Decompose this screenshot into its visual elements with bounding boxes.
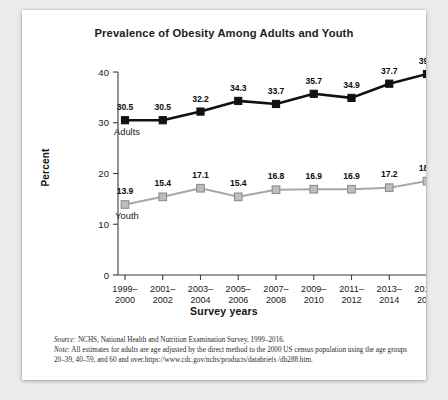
footnote-source-label: Source: — [54, 336, 76, 344]
data-point-marker — [159, 117, 166, 124]
data-point-marker — [385, 184, 393, 192]
data-point-marker — [197, 108, 204, 115]
data-point-label: 35.7 — [305, 76, 322, 86]
data-point-marker — [386, 80, 393, 87]
y-tick-label: 40 — [98, 67, 109, 78]
data-point-marker — [348, 94, 355, 101]
x-tick-label: 2008 — [266, 295, 286, 305]
x-tick-label: 2003– — [188, 284, 214, 294]
x-tick-label: 2002 — [153, 295, 173, 305]
data-point-marker — [234, 193, 242, 201]
x-tick-label: 1999– — [112, 284, 138, 294]
data-point-label: 17.1 — [192, 170, 209, 180]
data-point-label: 34.9 — [343, 80, 360, 90]
x-tick-label: 2004 — [190, 295, 210, 305]
data-point-label: 34.3 — [230, 83, 247, 93]
page-background: Prevalence of Obesity Among Adults and Y… — [0, 0, 448, 400]
data-point-label: 32.2 — [192, 94, 209, 104]
footnote-source-text: NCHS, National Health and Nutrition Exam… — [76, 336, 285, 344]
x-tick-label: 2015– — [414, 284, 426, 294]
data-point-marker — [310, 90, 317, 97]
data-point-label: 16.9 — [305, 171, 322, 181]
data-point-label: 16.9 — [343, 171, 360, 181]
data-point-label: 33.7 — [268, 86, 285, 96]
data-point-marker — [121, 117, 128, 124]
x-tick-label: 2001– — [150, 284, 176, 294]
data-point-marker — [197, 184, 205, 192]
x-tick-label: 2011– — [339, 284, 365, 294]
x-tick-label: 2007– — [263, 284, 289, 294]
data-point-marker — [235, 97, 242, 104]
series-label: Adults — [114, 127, 140, 137]
series-label: Youth — [115, 211, 138, 221]
y-tick-label: 0 — [104, 270, 109, 281]
y-tick-label: 10 — [98, 219, 109, 230]
data-point-label: 13.9 — [117, 186, 134, 196]
data-point-label: 39.6 — [419, 56, 426, 66]
x-tick-label: 2005– — [226, 284, 252, 294]
x-tick-label: 2013– — [377, 284, 403, 294]
figure-footnote: Source: NCHS, National Health and Nutrit… — [54, 335, 412, 366]
y-tick-label: 30 — [98, 117, 109, 128]
data-point-label: 17.2 — [381, 169, 398, 179]
data-point-label: 15.4 — [230, 178, 247, 188]
data-point-label: 37.7 — [381, 66, 398, 76]
chart-container: Percent Survey years 0102030401999–20002… — [22, 10, 426, 380]
footnote-note-text: All estimates for adults are age adjuste… — [54, 346, 407, 364]
data-point-label: 30.5 — [117, 102, 134, 112]
x-tick-label: 2012 — [341, 295, 361, 305]
x-tick-label: 2006 — [228, 295, 248, 305]
line-chart: 0102030401999–20002001–20022003–20042005… — [22, 10, 426, 310]
x-tick-label: 2010 — [304, 295, 324, 305]
data-point-label: 15.4 — [154, 178, 171, 188]
data-point-marker — [159, 193, 167, 201]
data-point-marker — [348, 185, 356, 193]
x-tick-label: 2016 — [417, 295, 426, 305]
footnote-note-label: Note: — [54, 346, 70, 354]
series-line — [125, 74, 426, 120]
data-point-label: 16.8 — [268, 171, 285, 181]
data-point-marker — [310, 185, 318, 193]
data-point-marker — [423, 70, 426, 77]
x-tick-label: 2014 — [379, 295, 399, 305]
data-point-label: 30.5 — [154, 102, 171, 112]
data-point-label: 18.5 — [419, 163, 426, 173]
data-point-marker — [272, 100, 279, 107]
y-tick-label: 20 — [98, 168, 109, 179]
x-tick-label: 2000 — [115, 295, 135, 305]
footnote-note: Note: All estimates for adults are age a… — [54, 345, 412, 365]
figure-card: Prevalence of Obesity Among Adults and Y… — [22, 10, 426, 380]
data-point-marker — [272, 186, 280, 194]
footnote-source: Source: NCHS, National Health and Nutrit… — [54, 335, 412, 345]
x-tick-label: 2009– — [301, 284, 327, 294]
data-point-marker — [423, 177, 426, 185]
data-point-marker — [121, 201, 129, 209]
